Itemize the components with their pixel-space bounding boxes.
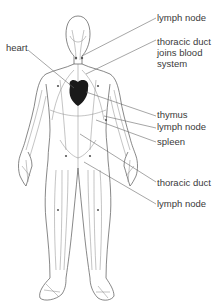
leader-thoracic-duct-joins: [86, 40, 156, 74]
label-thoracic-duct-joins: thoracic duct joins blood system: [157, 36, 211, 69]
leader-heart: [28, 50, 74, 88]
label-thoracic-duct: thoracic duct: [157, 177, 211, 188]
right-foot: [90, 278, 114, 300]
heart-shape: [69, 80, 88, 106]
label-spleen: spleen: [157, 136, 185, 147]
leader-lymph-node-groin: [84, 162, 156, 204]
leader-thymus: [86, 92, 156, 116]
leader-lymph-node-arm: [104, 116, 156, 128]
left-hand: [19, 152, 33, 186]
leader-lymph-node-neck: [82, 18, 156, 56]
label-heart: heart: [6, 42, 28, 53]
head-outline: [66, 16, 90, 64]
leader-lines: [28, 18, 156, 204]
label-lymph-node-arm: lymph node: [157, 121, 206, 132]
left-foot: [40, 278, 66, 300]
leader-thoracic-duct: [80, 134, 156, 182]
legs-outline: [45, 160, 111, 278]
label-lymph-node-neck: lymph node: [157, 12, 206, 23]
label-thymus: thymus: [157, 109, 188, 120]
label-lymph-node-groin: lymph node: [157, 198, 206, 209]
lymph-vessels: [22, 30, 134, 298]
